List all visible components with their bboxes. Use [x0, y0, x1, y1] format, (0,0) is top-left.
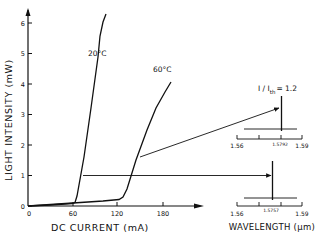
x-axis-arrow-icon	[194, 204, 204, 209]
y-tick-label: 2	[21, 142, 25, 150]
y-axis-arrow-icon	[26, 8, 31, 16]
ratio-label: I / Ith= 1.2	[258, 84, 297, 95]
x-axis-title: DC CURRENT (mA)	[51, 222, 149, 233]
lower-tick-label: 1.56	[230, 210, 244, 217]
chart-canvas: 0 1 2 3 4 5 6 0 60 120 180 DC CURRENT (m…	[0, 0, 316, 238]
upper-spectrum: I / Ith= 1.2 1.56 1.5792 1.59	[230, 84, 309, 149]
y-tick-label: 5	[21, 50, 25, 58]
upper-peak-label: 1.5792	[272, 142, 288, 147]
y-tick-label: 3	[21, 111, 25, 119]
y-tick-label: 0	[21, 203, 25, 211]
label-20c: 20°C	[88, 49, 107, 58]
curve-60c	[28, 82, 171, 206]
x-tick-label: 180	[157, 210, 169, 218]
y-axis-title: LIGHT INTENSITY (mW)	[3, 59, 14, 181]
y-tick-labels: 0 1 2 3 4 5 6	[21, 20, 25, 211]
label-60c: 60°C	[153, 65, 172, 74]
arrow-60c-to-upper-spectrum	[140, 108, 279, 157]
y-tick-label: 1	[21, 172, 25, 180]
y-tick-label: 6	[21, 20, 25, 28]
x-tick-label: 0	[27, 210, 31, 218]
upper-tick-label: 1.56	[230, 142, 244, 149]
main-axes	[26, 8, 205, 209]
x-tick-labels: 0 60 120 180	[27, 210, 169, 218]
wavelength-axis-title: WAVELENGTH (µm)	[229, 222, 315, 232]
lower-peak-label: 1.5757	[263, 208, 279, 213]
y-tick-label: 4	[21, 81, 25, 89]
x-tick-label: 120	[111, 210, 123, 218]
x-tick-label: 60	[69, 210, 77, 218]
lower-tick-label: 1.59	[295, 210, 309, 217]
lower-spectrum: 1.56 1.5757 1.59 WAVELENGTH (µm)	[229, 161, 315, 232]
curve-20c	[28, 14, 106, 206]
upper-tick-label: 1.59	[295, 142, 309, 149]
